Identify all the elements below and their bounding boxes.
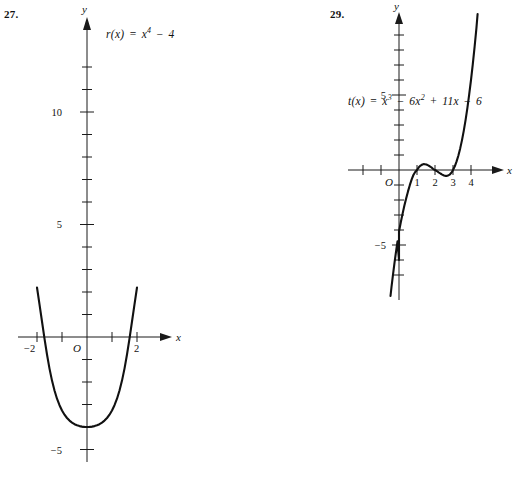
y-axis-27: y O 5 10 −5 [51,3,94,462]
x-tick-label-2: 2 [134,343,139,354]
equation-27-term1-exp: 4 [147,26,151,35]
equation-27-equals: = [128,28,139,40]
equation-29-term3: 11x [442,95,459,107]
figure-29-container: 29. 1 2 3 4 x y O [328,0,513,486]
equation-27-lhs: r(x) [106,28,124,40]
x-axis-label: x [506,164,512,176]
equation-29-lhs: t(x) [348,95,365,107]
equation-label-27: r(x) = x4 − 4 [106,28,175,40]
x-axis-27: −2 2 x [18,331,181,354]
x-tick-label-4: 4 [468,177,474,188]
equation-27-operator: − [155,28,166,40]
y-tick-label-neg5: −5 [375,240,386,251]
figure-27-container: 27. −2 2 x y O [0,0,320,486]
equation-label-29: t(x) = x3 − 6x2 + 11x − 6 [348,95,482,107]
equation-29-op2: + [428,95,439,107]
origin-label-27: O [73,342,81,354]
x-tick-label-neg2: −2 [24,343,35,354]
equation-29-term1-exp: 3 [388,93,392,102]
y-tick-label-5: 5 [57,219,62,230]
y-axis-arrow-icon [395,12,403,24]
equation-29-term2-exp: 2 [421,93,425,102]
x-axis-label: x [175,331,181,343]
x-tick-label-3: 3 [450,177,455,188]
y-tick-label-10: 10 [52,107,63,118]
equation-29-op1: − [395,95,406,107]
equation-27-term2: 4 [169,28,175,40]
y-axis-label: y [81,3,87,15]
origin-label-29: O [385,176,393,188]
y-axis-arrow-icon [83,17,91,30]
x-axis-arrow-icon [160,333,172,341]
x-tick-label-2: 2 [432,177,437,188]
plot-29: 1 2 3 4 x y O [328,0,513,486]
y-axis-label: y [393,0,399,12]
x-axis-arrow-icon [492,166,504,174]
equation-29-equals: = [368,95,379,107]
y-tick-label-neg5: −5 [51,445,62,456]
equation-29-op3: − [462,95,473,107]
x-tick-label-1: 1 [414,177,419,188]
y-axis-29: y O 5 −5 [375,0,406,300]
plot-27: −2 2 x y O 5 [0,0,320,486]
equation-29-term4: 6 [476,95,482,107]
